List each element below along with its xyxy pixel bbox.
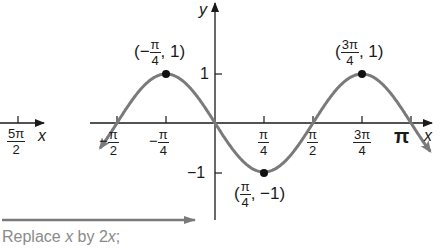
previous-x-label: x xyxy=(38,128,46,144)
previous-tick-label: 5π2 xyxy=(7,127,25,156)
y-axis-label: y xyxy=(199,2,207,18)
point-label-max-left: (−π4, 1) xyxy=(134,38,185,67)
y-tick-label-1: 1 xyxy=(200,66,209,82)
point-label-max-right: (3π4, 1) xyxy=(335,38,383,67)
x-tick-label-3pi-4: 3π4 xyxy=(353,128,371,157)
x-ticks xyxy=(117,116,411,123)
point-label-min: (π4, −1) xyxy=(234,180,285,209)
x-tick-label-neg-pi-4: −π4 xyxy=(149,128,169,157)
x-tick-label-neg-pi-2: −π2 xyxy=(99,128,119,157)
x-tick-label-pi-4: π4 xyxy=(258,128,269,157)
point-max-right xyxy=(358,70,366,78)
point-max-left xyxy=(162,70,170,78)
point-min xyxy=(260,169,268,177)
transform-caption: Replace x by 2x; xyxy=(2,228,120,246)
x-tick-label-pi-2: π2 xyxy=(307,128,318,157)
y-tick-label-neg1: −1 xyxy=(187,165,205,181)
x-axis-label: x xyxy=(424,128,432,144)
x-tick-label-pi: π xyxy=(394,126,409,146)
previous-graph-axis xyxy=(0,116,44,123)
